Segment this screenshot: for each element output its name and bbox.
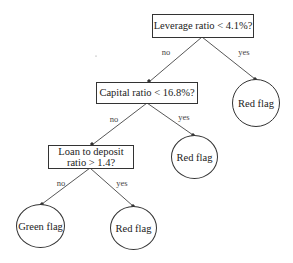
edge-label-root-no: no [162,47,171,57]
node-leverage-ratio: Leverage ratio < 4.1%? [152,14,254,38]
leaf-label: Red flag [238,98,274,109]
node-capital-ratio: Capital ratio < 16.8%? [96,82,198,104]
stray-dot [95,55,96,56]
leaf-red-flag-capital: Red flag [171,135,218,179]
leaf-label: Red flag [116,223,152,234]
edge-capital-no [92,103,147,145]
leaf-label: Red flag [177,152,213,163]
edge-root-no [149,37,202,82]
leaf-green-flag: Green flag [16,204,65,248]
edge-loan-no [42,168,90,204]
node-label: Capital ratio < 16.8%? [99,87,194,99]
leaf-red-flag-root: Red flag [232,79,280,127]
edge-label-root-yes: yes [238,47,249,57]
edge-label-loan-no: no [57,178,66,188]
edge-label-capital-no: no [110,114,119,124]
edge-label-loan-yes: yes [116,178,127,188]
edge-label-capital-yes: yes [178,112,189,122]
node-loan-to-deposit: Loan to deposit ratio > 1.4? [48,145,134,169]
leaf-red-flag-loan: Red flag [110,206,157,250]
node-label-line1: Loan to deposit [58,146,123,157]
leaf-label: Green flag [18,221,63,232]
node-label: Leverage ratio < 4.1%? [154,20,253,32]
node-label-line2: ratio > 1.4? [67,157,115,168]
edge-root-yes [202,37,255,79]
